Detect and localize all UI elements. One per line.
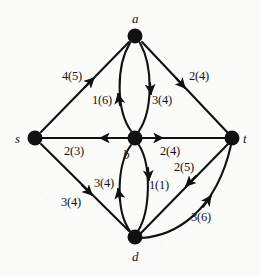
node-label-t: t [243, 132, 247, 145]
node-b [128, 131, 143, 146]
edge-label-b-a: 1(6) [92, 94, 112, 107]
node-t [225, 131, 240, 146]
edge-label-d-t: 3(6) [191, 211, 211, 224]
edge-a-t-arrow [176, 78, 185, 88]
node-s [28, 131, 43, 146]
edge-s-a-arrow [85, 78, 94, 87]
edge-b-a [120, 43, 131, 131]
edge-a-b-arrow [150, 83, 151, 94]
flow-network-figure: a s b t d 4(5) 2(4) 1(6) 3(4) 2(3) 2(4) … [0, 0, 260, 276]
node-a [128, 29, 143, 44]
node-label-s: s [15, 132, 20, 145]
node-label-a: a [132, 12, 139, 25]
edge-label-b-t: 2(4) [160, 145, 180, 158]
edge-d-t-arrow [203, 196, 211, 207]
edge-label-t-d: 2(5) [174, 161, 194, 174]
edge-b-d [138, 145, 148, 231]
edge-t-d-arrow [186, 176, 196, 186]
edge-label-b-s: 2(3) [64, 145, 84, 158]
edge-label-a-b: 3(4) [152, 94, 172, 107]
node-d [128, 230, 143, 245]
graph-canvas [0, 0, 260, 276]
edge-label-s-d: 3(4) [61, 196, 81, 209]
edge-label-b-d: 1(1) [149, 179, 169, 192]
edge-label-s-a: 4(5) [62, 70, 82, 83]
edge-label-a-t: 2(4) [189, 70, 209, 83]
node-label-b: b [123, 148, 130, 161]
edge-a-b [139, 43, 150, 131]
node-label-d: d [132, 250, 139, 263]
edge-label-d-b: 3(4) [94, 177, 114, 190]
edge-s-d-arrow [82, 185, 92, 195]
